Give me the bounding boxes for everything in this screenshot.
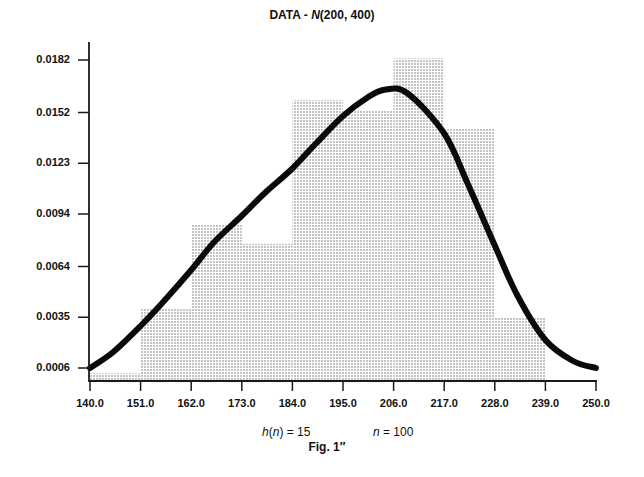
sample-size-annotation: n = 100 (373, 425, 413, 439)
histogram-bar (343, 111, 394, 381)
y-tick-label: 0.0094 (0, 207, 70, 219)
x-tick-label: 173.0 (217, 397, 267, 409)
x-tick-label: 206.0 (369, 397, 419, 409)
y-tick-label: 0.0064 (0, 260, 70, 272)
y-tick-label: 0.0152 (0, 106, 70, 118)
histogram-bar (90, 373, 141, 381)
histogram-bar (191, 225, 242, 382)
x-tick-label: 162.0 (166, 397, 216, 409)
bandwidth-annotation: h(n) = 15 (262, 425, 310, 439)
x-tick-label: 151.0 (116, 397, 166, 409)
x-tick-label: 217.0 (419, 397, 469, 409)
y-tick-label: 0.0006 (0, 361, 70, 373)
x-tick-label: 195.0 (318, 397, 368, 409)
x-tick-label: 228.0 (470, 397, 520, 409)
y-tick-label: 0.0123 (0, 156, 70, 168)
histogram-bar (242, 244, 293, 381)
y-tick-label: 0.0182 (0, 53, 70, 65)
y-tick-label: 0.0035 (0, 310, 70, 322)
histogram-bars (90, 58, 545, 381)
x-tick-label: 239.0 (520, 397, 570, 409)
figure-caption: Fig. 1″ (0, 440, 644, 454)
x-tick-label: 184.0 (267, 397, 317, 409)
x-tick-label: 140.0 (65, 397, 115, 409)
histogram-bar (444, 128, 495, 381)
x-tick-label: 250.0 (571, 397, 621, 409)
